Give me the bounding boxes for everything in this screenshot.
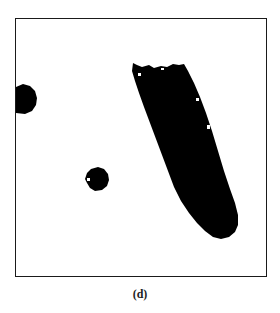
- large-blob-speck: [207, 125, 210, 129]
- segmentation-image: [16, 19, 266, 276]
- image-frame: [15, 18, 267, 277]
- figure-caption: (d): [0, 287, 280, 302]
- small-blob-speck: [87, 178, 90, 181]
- large-blob-speck: [138, 73, 141, 76]
- large-elongated-blob: [132, 63, 238, 239]
- large-blob-speck: [196, 98, 199, 101]
- large-blob-speck: [161, 68, 164, 70]
- left-edge-blob: [16, 84, 37, 114]
